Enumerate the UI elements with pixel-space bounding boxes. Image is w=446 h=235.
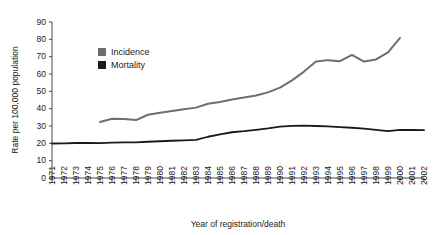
x-tick-label: 1973 — [71, 166, 81, 185]
x-tick-label: 1978 — [131, 166, 141, 185]
x-tick-label: 1995 — [335, 166, 345, 185]
x-tick-label: 1999 — [383, 166, 393, 185]
y-axis-title: Rate per 100,000 population — [10, 46, 20, 154]
x-tick-label: 1974 — [83, 166, 93, 185]
y-tick-label: 40 — [37, 103, 47, 113]
chart-container: 0102030405060708090197119721973197419751… — [0, 0, 446, 235]
y-tick-label: 0 — [41, 173, 46, 183]
x-tick-label: 1979 — [143, 166, 153, 185]
x-tick-label: 1976 — [107, 166, 117, 185]
x-tick-label: 1981 — [167, 166, 177, 185]
series-line-mortality — [52, 126, 424, 144]
x-tick-label: 2001 — [407, 166, 417, 185]
x-tick-label: 1972 — [59, 166, 69, 185]
x-tick-label: 2000 — [395, 166, 405, 185]
x-tick-label: 1992 — [299, 166, 309, 185]
x-tick-label: 1986 — [227, 166, 237, 185]
legend-label-incidence: Incidence — [111, 47, 150, 57]
x-tick-label: 1984 — [203, 166, 213, 185]
x-tick-label: 1987 — [239, 166, 249, 185]
y-tick-label: 50 — [37, 86, 47, 96]
x-tick-label: 1975 — [95, 166, 105, 185]
legend-swatch-incidence — [98, 48, 106, 56]
y-tick-label: 90 — [37, 17, 47, 27]
legend-swatch-mortality — [98, 61, 106, 69]
x-tick-label: 1990 — [275, 166, 285, 185]
y-tick-label: 30 — [37, 121, 47, 131]
x-tick-label: 1982 — [179, 166, 189, 185]
x-tick-label: 1988 — [251, 166, 261, 185]
x-tick-label: 1998 — [371, 166, 381, 185]
x-tick-label: 1971 — [47, 166, 57, 185]
y-tick-label: 60 — [37, 69, 47, 79]
y-tick-label: 70 — [37, 51, 47, 61]
y-tick-label: 20 — [37, 138, 47, 148]
x-tick-label: 1996 — [347, 166, 357, 185]
line-chart: 0102030405060708090197119721973197419751… — [0, 0, 446, 235]
x-tick-label: 1989 — [263, 166, 273, 185]
x-tick-label: 1993 — [311, 166, 321, 185]
x-tick-label: 2002 — [419, 166, 429, 185]
x-tick-label: 1985 — [215, 166, 225, 185]
x-tick-label: 1977 — [119, 166, 129, 185]
y-tick-label: 80 — [37, 34, 47, 44]
y-tick-label: 10 — [37, 155, 47, 165]
x-tick-label: 1983 — [191, 166, 201, 185]
x-tick-label: 1994 — [323, 166, 333, 185]
legend-label-mortality: Mortality — [111, 60, 146, 70]
x-tick-label: 1997 — [359, 166, 369, 185]
x-axis-title: Year of registration/death — [191, 219, 286, 229]
x-tick-label: 1980 — [155, 166, 165, 185]
x-tick-label: 1991 — [287, 166, 297, 185]
